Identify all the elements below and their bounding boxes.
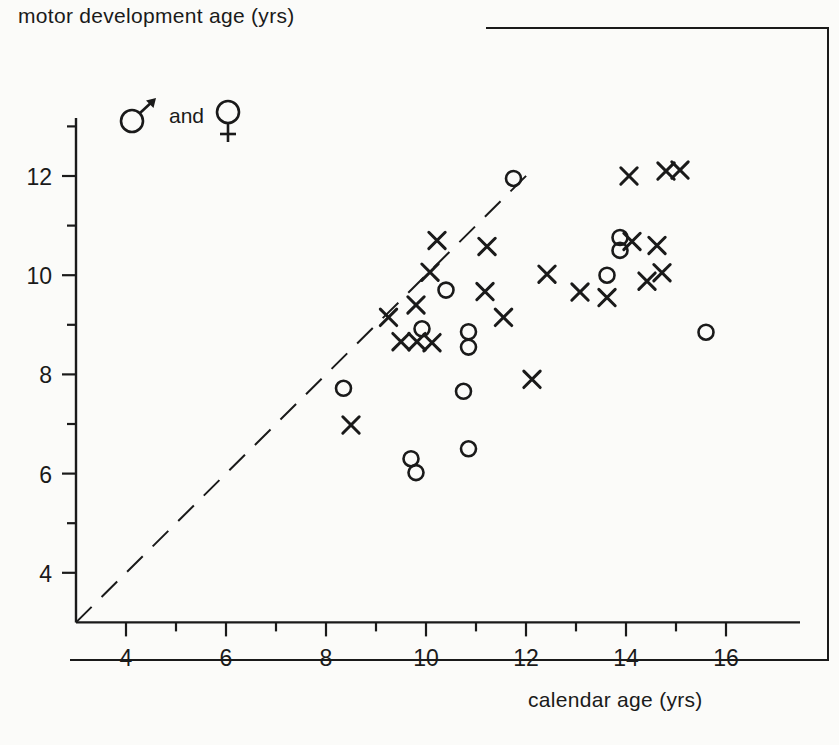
data-point-circle bbox=[506, 171, 521, 186]
x-tick-label: 8 bbox=[320, 645, 333, 671]
x-tick-label: 6 bbox=[220, 645, 233, 671]
data-point-cross bbox=[479, 238, 495, 254]
plot-frame bbox=[70, 28, 828, 660]
data-point-circle bbox=[461, 441, 476, 456]
data-point-cross bbox=[393, 333, 409, 349]
data-point-circle bbox=[461, 324, 476, 339]
y-tick-label: 10 bbox=[26, 263, 52, 289]
x-tick-label: 12 bbox=[513, 645, 539, 671]
y-tick-label: 12 bbox=[26, 164, 52, 190]
data-point-cross bbox=[539, 266, 555, 282]
data-point-cross bbox=[477, 283, 493, 299]
data-point-cross bbox=[429, 232, 445, 248]
data-point-cross bbox=[672, 162, 688, 178]
y-tick-label: 8 bbox=[39, 362, 52, 388]
data-point-circle bbox=[336, 381, 351, 396]
scatter-plot: 468101214164681012 bbox=[0, 0, 839, 745]
x-tick-label: 4 bbox=[120, 645, 133, 671]
data-point-cross bbox=[422, 264, 438, 280]
data-point-circle bbox=[456, 384, 471, 399]
data-point-cross bbox=[524, 371, 540, 387]
y-tick-label: 6 bbox=[39, 462, 52, 488]
data-point-cross bbox=[408, 297, 424, 313]
data-point-cross bbox=[649, 237, 665, 253]
data-point-cross bbox=[424, 334, 440, 350]
data-point-circle bbox=[600, 268, 615, 283]
data-point-circle bbox=[439, 283, 454, 298]
data-point-cross bbox=[599, 289, 615, 305]
x-tick-label: 16 bbox=[713, 645, 739, 671]
y-tick-label: 4 bbox=[39, 561, 52, 587]
data-point-cross bbox=[343, 417, 359, 433]
data-point-circle bbox=[699, 325, 714, 340]
data-point-cross bbox=[495, 309, 511, 325]
data-point-circle bbox=[409, 465, 424, 480]
x-tick-label: 10 bbox=[413, 645, 439, 671]
figure-canvas: motor development age (yrs) calendar age… bbox=[0, 0, 839, 745]
data-point-circle bbox=[415, 321, 430, 336]
data-point-circle bbox=[461, 340, 476, 355]
data-point-cross bbox=[621, 168, 637, 184]
plot-axes bbox=[62, 118, 800, 636]
data-markers bbox=[336, 162, 714, 480]
x-tick-label: 14 bbox=[613, 645, 639, 671]
data-point-cross bbox=[572, 284, 588, 300]
